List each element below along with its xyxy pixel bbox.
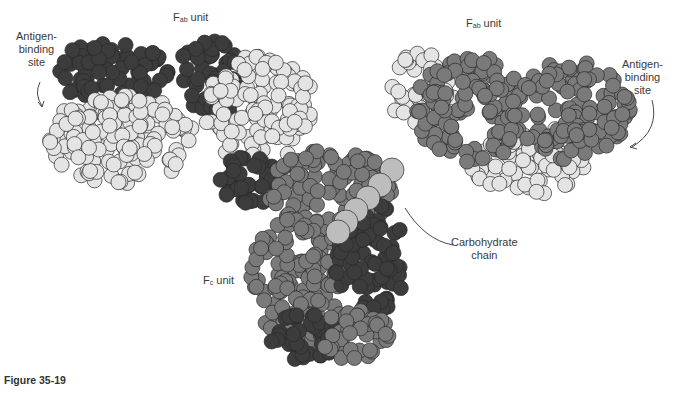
- carbohydrate-chain-label: Carbohydrate chain: [451, 236, 518, 262]
- fab-left-label: Fab unit: [173, 11, 208, 26]
- fc-label: Fc unit: [203, 274, 234, 289]
- figure-caption: Figure 35-19: [4, 374, 66, 386]
- carbohydrate-leader-line: [405, 208, 453, 245]
- antigen-binding-site-right-label: Antigen- binding site: [622, 58, 663, 97]
- antigen-binding-site-left-label: Antigen- binding site: [16, 30, 57, 69]
- antibody-space-filling-model: [43, 34, 638, 366]
- fab-right-label: Fab unit: [466, 17, 501, 32]
- antibody-diagram: [0, 0, 683, 397]
